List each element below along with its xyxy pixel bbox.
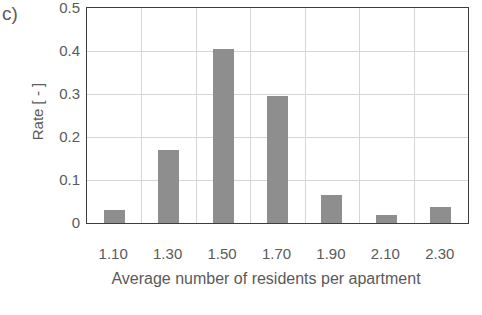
gridline-vertical [141, 8, 142, 223]
gridline-vertical [250, 8, 251, 223]
x-axis-tick-labels: 1.101.301.501.701.902.102.30 [86, 246, 467, 268]
plot-inner [87, 8, 468, 223]
bar [321, 195, 342, 223]
bar [376, 215, 397, 223]
plot-area [86, 7, 469, 224]
panel-letter: c) [2, 4, 18, 23]
bar [158, 150, 179, 223]
x-axis-tick-label: 1.70 [247, 246, 307, 261]
x-axis-tick-label: 1.90 [301, 246, 361, 261]
bar [267, 96, 288, 223]
gridline-vertical [359, 8, 360, 223]
bar [430, 207, 451, 223]
y-axis-tick-label: 0.5 [40, 0, 80, 15]
gridline-horizontal [87, 51, 468, 52]
x-axis-title: Average number of residents per apartmen… [66, 268, 466, 290]
bar [213, 49, 234, 223]
gridline-vertical [196, 8, 197, 223]
x-axis-tick-label: 2.30 [410, 246, 470, 261]
x-axis-tick-label: 1.10 [83, 246, 143, 261]
y-axis-tick-label: 0.4 [40, 43, 80, 58]
gridline-vertical [414, 8, 415, 223]
bar [104, 210, 125, 223]
x-axis-tick-label: 2.10 [355, 246, 415, 261]
y-axis-tick-label: 0.3 [40, 86, 80, 101]
y-axis-tick-label: 0 [40, 215, 80, 230]
gridline-vertical [305, 8, 306, 223]
x-axis-tick-label: 1.30 [138, 246, 198, 261]
figure-panel-c: c) Rate [ - ] 0.50.40.30.20.10 1.101.301… [0, 0, 482, 315]
x-axis-tick-label: 1.50 [192, 246, 252, 261]
y-axis-tick-label: 0.2 [40, 129, 80, 144]
gridline-horizontal [87, 94, 468, 95]
y-axis-tick-label: 0.1 [40, 172, 80, 187]
